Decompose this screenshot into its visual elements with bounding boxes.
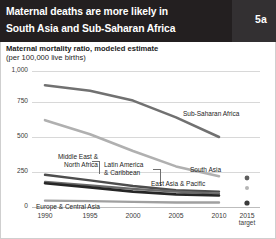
series-label-sub-saharan-africa: Sub-Saharan Africa [183,110,239,118]
chart-figure: Maternal deaths are more likely in South… [0,0,276,239]
leader-line-middle-east-north-africa [99,161,100,174]
header-title-block: Maternal deaths are more likely in South… [6,3,222,39]
chart-subtitle: Maternal mortality ratio, modeled estima… [6,44,256,63]
xtick-label-2015-target: 2015 target [227,212,267,227]
frame-right-border [275,42,276,239]
xtick-label-2005: 2005 [156,212,196,219]
series-label-east-asia-pacific: East Asia & Pacific [151,180,205,188]
xtick-2015-year: 2015 [239,212,254,219]
xtick-label-1990: 1990 [25,212,65,219]
header-banner: Maternal deaths are more likely in South… [0,0,276,42]
frame-bottom-border [0,238,276,239]
page-title-line-1: Maternal deaths are more likely in [6,3,222,20]
figure-badge-panel: 5a [232,0,276,42]
chart-subtitle-line-1: Maternal mortality ratio, modeled estima… [6,44,256,53]
target-marker-sub-saharan-africa [245,176,250,181]
series-label-europe-central-asia: Europe & Central Asia [36,203,100,211]
leader-elbow-latin-america-caribbean [153,169,161,170]
target-marker-south-asia [245,186,249,190]
page-title-line-2: South Asia and Sub-Saharan Africa [6,20,222,37]
leader-elbow-middle-east-north-africa [92,161,100,162]
xtick-2015-target-word: target [227,219,267,227]
frame-left-border [0,42,1,239]
series-label-mena-line-1: Middle East & [58,153,98,160]
series-label-south-asia: South Asia [190,166,221,174]
target-marker-europe-central-asia [244,200,249,205]
series-label-latin-america-caribbean: Latin America & Caribbean [104,161,160,176]
xtick-label-1995: 1995 [70,212,110,219]
series-label-middle-east-north-africa: Middle East & North Africa [36,153,98,168]
series-label-lac-line-1: Latin America [104,161,143,168]
figure-badge-label: 5a [255,13,267,25]
plot-area: 1,000 750 500 250 0 Sub-Saharan Africa [0,62,276,239]
xtick-label-2000: 2000 [113,212,153,219]
series-label-lac-line-2: & Caribbean [104,169,140,176]
